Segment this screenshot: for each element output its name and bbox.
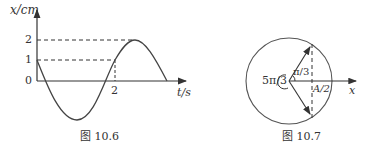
xt-graph: [37, 10, 186, 120]
y-tick-1: 1: [25, 53, 32, 66]
projection-label: A/2: [313, 83, 330, 94]
y-tick-2: 2: [25, 33, 32, 46]
angle-small-label: π/3: [293, 66, 309, 77]
y-tick-0: 0: [25, 74, 32, 87]
angle-large-label: 5π/3: [262, 74, 287, 87]
x-axis-label: t/s: [177, 86, 191, 99]
x-label: x: [349, 84, 355, 97]
y-axis-label: x/cm: [10, 3, 39, 17]
vector-lower: [289, 81, 310, 114]
displacement-curve: [37, 40, 167, 120]
caption-left: 图 10.6: [80, 127, 119, 143]
x-tick-2: 2: [111, 84, 118, 97]
caption-right: 图 10.7: [282, 127, 321, 143]
